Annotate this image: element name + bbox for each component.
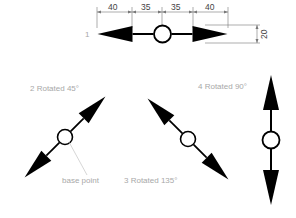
dim-label-3: 35	[171, 2, 181, 12]
arrow-symbol-4	[263, 75, 280, 205]
label-item-1: 1	[85, 30, 90, 39]
label-item-4: 4 Rotated 90°	[198, 82, 247, 91]
label-base-point: base point	[62, 176, 100, 185]
base-point-leader	[69, 142, 87, 175]
diagram-canvas: 40 35 35 40 20 1 2 Rotated 45° base poin…	[0, 0, 296, 218]
label-item-3: 3 Rotated 135°	[124, 176, 177, 185]
arrow-symbol-3	[142, 93, 233, 184]
dim-label-height: 20	[259, 29, 269, 39]
arrow-symbol-2	[19, 91, 110, 182]
label-item-2: 2 Rotated 45°	[30, 84, 79, 93]
dim-label-1: 40	[108, 2, 118, 12]
dim-label-2: 35	[141, 2, 151, 12]
dim-label-4: 40	[205, 2, 215, 12]
arrow-symbol-1	[98, 26, 228, 43]
